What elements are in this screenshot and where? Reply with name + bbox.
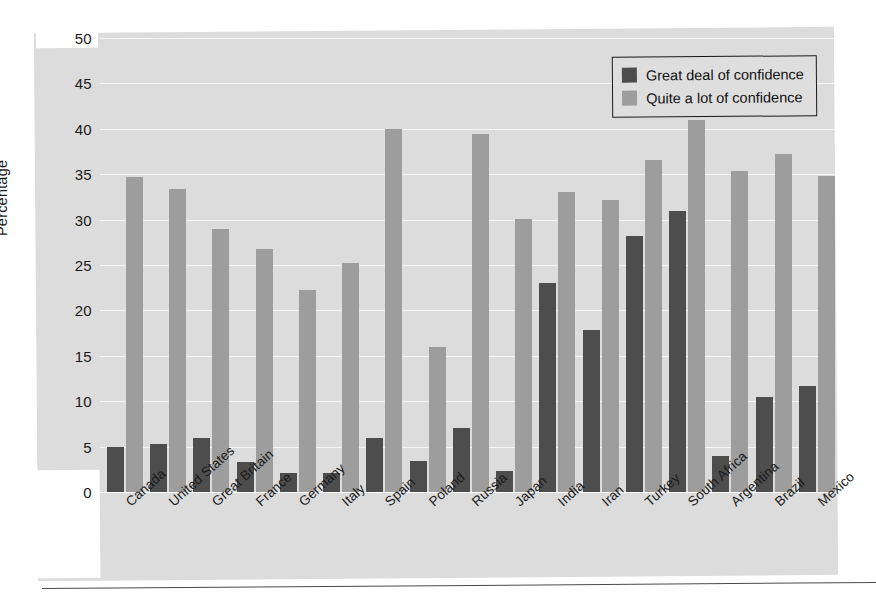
bar-india-great-deal <box>539 283 556 492</box>
bar-mexico-great-deal <box>799 386 816 492</box>
bar-canada-quite-a-lot <box>126 177 143 492</box>
bar-poland-quite-a-lot <box>429 347 446 492</box>
y-axis-tick-35: 35 <box>52 167 92 182</box>
bar-chart-figure: Percentage 05101520253035404550 CanadaUn… <box>0 0 876 604</box>
bar-group <box>107 38 150 492</box>
y-axis-tick-labels: 05101520253035404550 <box>44 38 92 492</box>
bar-group <box>366 38 409 492</box>
bar-canada-great-deal <box>107 447 124 492</box>
bar-turkey-great-deal <box>626 236 643 492</box>
y-axis-title: Percentage <box>0 160 10 236</box>
legend-item-great-deal: Great deal of confidence <box>622 62 804 86</box>
bar-spain-great-deal <box>366 438 383 492</box>
y-axis-tick-30: 30 <box>52 212 92 227</box>
y-axis-tick-25: 25 <box>52 258 92 273</box>
bar-iran-great-deal <box>583 330 600 492</box>
bar-group <box>453 38 496 492</box>
bar-group <box>280 38 323 492</box>
bar-turkey-quite-a-lot <box>645 160 662 492</box>
y-axis-tick-0: 0 <box>52 485 92 500</box>
y-axis-tick-10: 10 <box>52 394 92 409</box>
bar-group <box>323 38 366 492</box>
bar-japan-quite-a-lot <box>515 219 532 492</box>
bar-group <box>193 38 236 492</box>
bar-argentina-quite-a-lot <box>731 171 748 492</box>
y-axis-tick-50: 50 <box>52 31 92 46</box>
bar-group <box>150 38 193 492</box>
bar-russia-quite-a-lot <box>472 134 489 492</box>
legend-swatch-light-icon <box>622 91 637 106</box>
bar-spain-quite-a-lot <box>385 129 402 492</box>
y-axis-tick-40: 40 <box>52 121 92 136</box>
bar-mexico-quite-a-lot <box>818 176 835 492</box>
bar-group <box>496 38 539 492</box>
bar-india-quite-a-lot <box>558 192 575 492</box>
y-axis-tick-45: 45 <box>52 76 92 91</box>
bar-united-states-quite-a-lot <box>169 189 186 492</box>
chart-legend: Great deal of confidence Quite a lot of … <box>612 55 817 118</box>
legend-item-quite-a-lot: Quite a lot of confidence <box>622 85 804 109</box>
y-axis-tick-5: 5 <box>52 439 92 454</box>
bar-brazil-quite-a-lot <box>775 154 792 492</box>
bar-group <box>410 38 453 492</box>
bar-south-africa-quite-a-lot <box>688 120 705 492</box>
bar-group <box>237 38 280 492</box>
bar-group <box>539 38 582 492</box>
bar-south-africa-great-deal <box>669 211 686 492</box>
legend-label-great-deal: Great deal of confidence <box>646 66 804 83</box>
legend-swatch-dark-icon <box>622 68 637 83</box>
bar-germany-quite-a-lot <box>299 290 316 492</box>
bar-italy-quite-a-lot <box>342 263 359 492</box>
y-axis-tick-20: 20 <box>52 303 92 318</box>
bar-iran-quite-a-lot <box>602 200 619 492</box>
legend-label-quite-a-lot: Quite a lot of confidence <box>646 89 803 106</box>
y-axis-tick-15: 15 <box>52 348 92 363</box>
